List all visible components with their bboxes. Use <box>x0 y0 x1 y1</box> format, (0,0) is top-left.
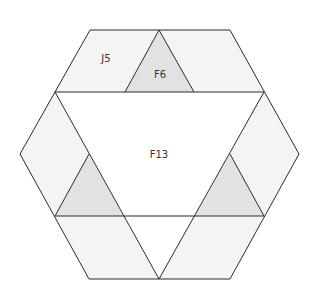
label-f6: F6 <box>154 69 166 80</box>
quilt-hexagon-diagram: J5 F6 F13 <box>0 0 316 302</box>
label-j5: J5 <box>100 53 110 64</box>
label-f13: F13 <box>150 149 168 160</box>
